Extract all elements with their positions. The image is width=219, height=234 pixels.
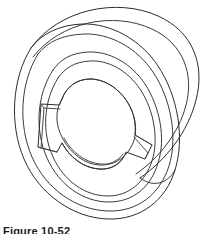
technical-drawing: Isometric line drawing of a cylindrical … [0,0,219,234]
figure-caption-text: Figure 10-52 [3,226,217,234]
page-background [0,0,219,234]
figure-container: Isometric line drawing of a cylindrical … [0,0,219,234]
figure-caption: Figure 10-52 [3,226,217,234]
